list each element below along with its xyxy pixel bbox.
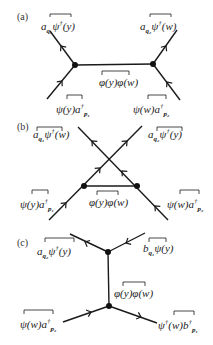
label-b-bottom-right: ψ(w)a†p₂ — [167, 195, 203, 215]
label-sub: p₁ — [192, 326, 198, 334]
label-text: (y) — [63, 20, 75, 32]
contraction-bracket — [97, 191, 118, 195]
contraction-bracket — [32, 190, 48, 194]
contraction-bracket — [148, 95, 166, 99]
label-text: ψ(y)a — [20, 198, 45, 210]
label-b-top-left: aq₁ψ†(w) — [33, 125, 69, 145]
fermion-line-in-bottom-left — [63, 306, 109, 322]
label-c-bottom-right: ψ†(w)b†p₁ — [158, 316, 198, 336]
panel-label-a: (a) — [17, 11, 28, 22]
fermion-line-in-left — [47, 65, 75, 99]
label-a-bottom-right: ψ(w)a†p₂ — [133, 100, 169, 120]
antifermion-line-bottom-right — [109, 306, 157, 323]
label-b-bottom-left: ψ(y)a†p₁ — [20, 195, 54, 215]
arrow-icon — [119, 169, 127, 177]
panel-label-b: (b) — [17, 121, 29, 132]
scalar-propagator — [75, 64, 153, 65]
label-text: (w) — [162, 20, 177, 32]
fermion-line-out-top-left — [70, 234, 108, 252]
label-b-propagator: φ(y)φ(w) — [89, 196, 128, 208]
label-sup: † — [47, 317, 51, 325]
contraction-bracket — [123, 282, 145, 286]
label-sub: p₂ — [51, 325, 57, 333]
label-text: ψ(y) — [154, 242, 173, 254]
label-text: (y) — [59, 245, 71, 257]
contraction-bracket — [174, 311, 194, 315]
label-sup: † — [45, 197, 49, 205]
label-a-bottom-left: ψ(y)a†p₁ — [56, 100, 90, 120]
label-sup: † — [160, 102, 164, 110]
label-sup: † — [81, 102, 85, 110]
contraction-bracket — [180, 190, 199, 194]
vertex-dot — [81, 183, 87, 189]
label-c-top-right: bq₁ψ(y) — [143, 242, 174, 259]
label-c-propagator: φ(y)φ(w) — [114, 287, 153, 299]
label-text: ψ(w)a — [20, 318, 47, 330]
label-sub: p₂ — [198, 205, 204, 213]
label-text: ψ(y)a — [56, 103, 81, 115]
label-text: ψ(w)a — [167, 198, 194, 210]
contraction-bracket — [24, 310, 53, 314]
label-a-top-right: aq₂ψ†(w) — [140, 17, 176, 37]
vertex-dot — [150, 61, 156, 67]
label-sub: p₂ — [164, 110, 170, 118]
panel-label-c: (c) — [17, 237, 28, 248]
label-a-top-left: aq₁ψ†(y) — [41, 17, 75, 37]
label-text: (w)b — [168, 319, 188, 331]
contraction-bracket — [67, 95, 82, 99]
label-a-propagator: φ(y)φ(w) — [99, 76, 138, 88]
label-sub: p₁ — [48, 205, 54, 213]
label-b-top-right: aq₂ψ†(y) — [148, 125, 182, 145]
label-text: (w) — [55, 128, 70, 140]
feynman-diagrams — [0, 0, 213, 345]
label-sup: † — [194, 197, 198, 205]
scalar-propagator — [108, 252, 109, 306]
vertex-dot — [106, 303, 112, 309]
vertex-dot — [134, 183, 140, 189]
contraction-bracket — [102, 71, 129, 75]
vertex-dot — [72, 62, 78, 68]
vertex-dot — [105, 249, 111, 255]
label-text: (y) — [170, 128, 182, 140]
label-sup: † — [189, 318, 193, 326]
label-c-top-left: aq₂ψ†(y) — [37, 242, 71, 262]
label-sub: p₁ — [84, 110, 90, 118]
label-text: ψ — [158, 319, 165, 331]
label-c-bottom-left: ψ(w)a†p₂ — [20, 315, 56, 335]
label-text: ψ(w)a — [133, 103, 160, 115]
